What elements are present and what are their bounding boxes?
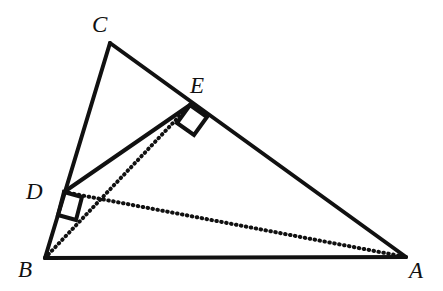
solid-segment-BA (45, 257, 406, 258)
figure-canvas (0, 0, 443, 291)
vertex-label-D: D (26, 180, 43, 203)
vertex-label-C: C (92, 13, 107, 36)
solid-segment-CA (110, 43, 406, 257)
right-angle-marker-layer (58, 105, 207, 220)
dotted-segment-DA (64, 192, 406, 257)
solid-segment-layer (45, 43, 406, 258)
geometry-figure: C E D B A (0, 0, 443, 291)
vertex-label-E: E (190, 74, 204, 97)
vertex-label-A: A (409, 259, 423, 282)
right-angle-marker-at-D (58, 192, 82, 220)
vertex-label-B: B (18, 258, 32, 281)
solid-segment-DE (64, 105, 190, 192)
